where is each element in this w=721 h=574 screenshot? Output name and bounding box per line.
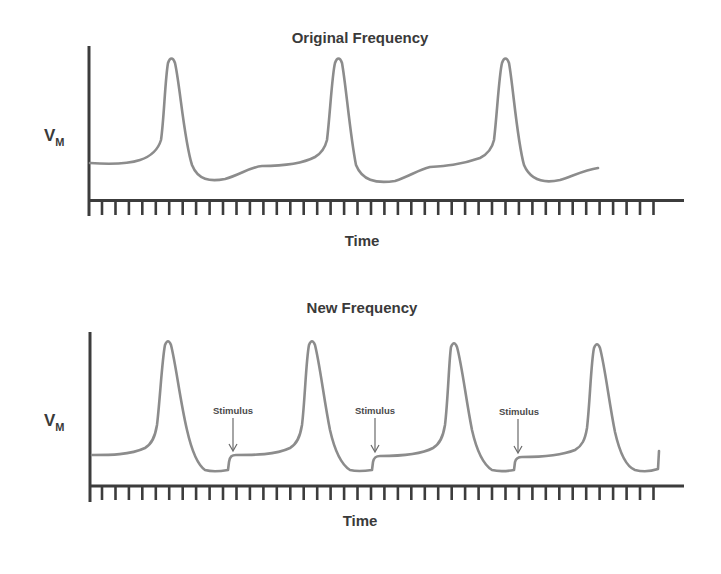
action-potential-diagram: Original Frequency VM Time New Frequency… <box>0 0 721 574</box>
bottom-panel-title: New Frequency <box>307 299 419 316</box>
top-y-axis-label: VM <box>44 126 65 148</box>
svg-text:Stimulus: Stimulus <box>499 406 539 417</box>
svg-text:Stimulus: Stimulus <box>355 405 395 416</box>
top-panel-title: Original Frequency <box>292 29 429 46</box>
top-voltage-trace <box>90 59 598 182</box>
top-x-axis-ticks <box>102 200 654 215</box>
bottom-x-axis-ticks <box>102 486 654 500</box>
top-x-axis-label: Time <box>345 232 380 249</box>
stimulus-annotation-1: Stimulus <box>213 405 253 451</box>
bottom-panel: New Frequency VM Stimulus Stimulus Stimu… <box>44 299 684 529</box>
top-panel: Original Frequency VM Time <box>44 29 684 249</box>
svg-text:Stimulus: Stimulus <box>213 405 253 416</box>
stimulus-annotation-3: Stimulus <box>499 406 539 453</box>
bottom-x-axis-label: Time <box>343 512 378 529</box>
bottom-y-axis-label: VM <box>44 411 65 433</box>
stimulus-annotation-2: Stimulus <box>355 405 395 452</box>
